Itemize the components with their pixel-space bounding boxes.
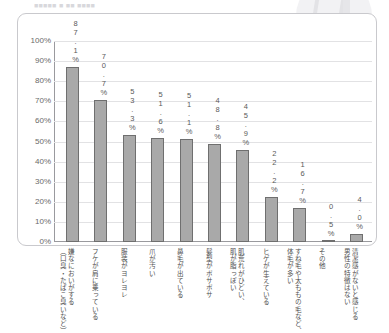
bar-value-label: 48.8% bbox=[208, 96, 221, 141]
bar-value-label: 22.2% bbox=[265, 149, 278, 194]
category-label-line: 嫌なにおいがする bbox=[67, 248, 75, 333]
category-label-line: フケが肩に乗っている bbox=[91, 248, 99, 333]
bar-value-label: 51.1% bbox=[180, 91, 193, 136]
bar[interactable] bbox=[94, 100, 107, 242]
bar-value-label: 70.7% bbox=[94, 52, 107, 97]
bar-value-label: 16.7% bbox=[293, 160, 306, 205]
y-axis-tick-label: 100% bbox=[31, 37, 51, 45]
bar-slot: 51.1% bbox=[174, 41, 200, 242]
bar-slot: 16.7% bbox=[287, 41, 313, 242]
bar[interactable] bbox=[322, 240, 335, 242]
bar[interactable] bbox=[208, 144, 221, 242]
category-label-line: 清潔感がないと感じる bbox=[351, 248, 359, 333]
x-axis-category-label: フケが肩に乗っている bbox=[81, 248, 107, 333]
bar-slot: 48.8% bbox=[202, 41, 228, 242]
x-axis-category-label: ヒゲが生えている bbox=[252, 248, 278, 333]
category-label-line: ヒゲが生えている bbox=[261, 248, 269, 333]
y-axis-tick-label: 20% bbox=[35, 198, 51, 206]
bar[interactable] bbox=[265, 197, 278, 242]
bar-slot: 22.2% bbox=[259, 41, 285, 242]
bar-value-label: 87.1% bbox=[66, 19, 79, 64]
bar-value-label: 53.3% bbox=[123, 87, 136, 132]
bar-chart-card: 100%90%80%70%60%50%40%30%20%10%0% 87.1%7… bbox=[17, 13, 377, 246]
bar[interactable] bbox=[123, 135, 136, 242]
y-axis-tick-label: 80% bbox=[35, 77, 51, 85]
bar-value-label: 0.5% bbox=[322, 202, 335, 238]
category-label-line: （口臭・たばこ臭いなど） bbox=[58, 248, 66, 333]
bar[interactable] bbox=[151, 138, 164, 242]
y-axis-tick-label: 0% bbox=[39, 238, 51, 246]
category-label-line: 肌が脂っぽい bbox=[228, 248, 236, 333]
y-axis-tick-label: 30% bbox=[35, 178, 51, 186]
x-axis-category-label: 鼻毛が出ている bbox=[167, 248, 193, 333]
bar-slot: 53.3% bbox=[117, 41, 143, 242]
bar-slot: 4.0% bbox=[344, 41, 370, 242]
bar-value-label: 45.9% bbox=[236, 102, 249, 147]
category-label-line: 服装がヨレヨレ bbox=[119, 248, 127, 333]
category-label-line: 爪が汚い bbox=[147, 248, 155, 333]
bar[interactable] bbox=[180, 139, 193, 242]
x-axis-category-labels: 嫌なにおいがする（口臭・たばこ臭いなど）フケが肩に乗っている服装がヨレヨレ爪が汚… bbox=[53, 248, 389, 333]
category-label-line: 肌荒れがひどい、 bbox=[237, 248, 245, 333]
category-label-line: 男性の特徴はない bbox=[342, 248, 350, 333]
x-axis-category-label: その他 bbox=[309, 248, 335, 333]
x-axis-category-label: 肌荒れがひどい、肌が脂っぽい bbox=[223, 248, 249, 333]
page-header-text: ■■■■■ ■ ■■ ■■■■ bbox=[34, 1, 254, 10]
y-axis-tick-label: 40% bbox=[35, 158, 51, 166]
x-axis-category-label: 服装がヨレヨレ bbox=[110, 248, 136, 333]
y-axis: 100%90%80%70%60%50%40%30%20%10%0% bbox=[18, 14, 54, 247]
bar-slot: 70.7% bbox=[88, 41, 114, 242]
plot-area: 87.1%70.7%53.3%51.6%51.1%48.8%45.9%22.2%… bbox=[54, 41, 372, 242]
y-axis-tick-label: 60% bbox=[35, 117, 51, 125]
bar-slot: 87.1% bbox=[60, 41, 86, 242]
bar[interactable] bbox=[293, 208, 306, 242]
y-axis-tick-label: 70% bbox=[35, 97, 51, 105]
bar-slot: 0.5% bbox=[316, 41, 342, 242]
bar[interactable] bbox=[66, 67, 79, 242]
bar[interactable] bbox=[350, 234, 363, 242]
x-axis-category-label: 清潔感がないと感じる男性の特徴はない bbox=[337, 248, 363, 333]
category-label-line: 鼻毛が出ている bbox=[176, 248, 184, 333]
bar[interactable] bbox=[236, 150, 249, 242]
bar-slot: 45.9% bbox=[230, 41, 256, 242]
x-axis-category-label: 髪型がボサボサ bbox=[195, 248, 221, 333]
category-label-line: 体毛が多い bbox=[285, 248, 293, 333]
category-label-line: 髪型がボサボサ bbox=[204, 248, 212, 333]
category-label-line: その他 bbox=[318, 248, 326, 333]
y-axis-tick-label: 50% bbox=[35, 138, 51, 146]
x-axis-category-label: 嫌なにおいがする（口臭・たばこ臭いなど） bbox=[53, 248, 79, 333]
bar-value-label: 51.6% bbox=[151, 90, 164, 135]
category-label-line: すね毛や太ももの毛など、 bbox=[294, 248, 302, 333]
x-axis-category-label: すね毛や太ももの毛など、体毛が多い bbox=[280, 248, 306, 333]
bar-slot: 51.6% bbox=[145, 41, 171, 242]
y-axis-tick-label: 10% bbox=[35, 218, 51, 226]
bar-value-label: 4.0% bbox=[350, 195, 363, 231]
y-axis-tick-label: 90% bbox=[35, 57, 51, 65]
x-axis-category-label: 爪が汚い bbox=[138, 248, 164, 333]
